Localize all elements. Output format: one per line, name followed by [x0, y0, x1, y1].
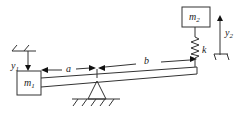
y1-arrow	[25, 51, 31, 71]
spring-k-label: k	[202, 44, 207, 55]
dimension-a-label: a	[66, 63, 71, 74]
y2-reference-ground	[214, 54, 229, 60]
y1-reference-ground	[12, 45, 36, 51]
lever-spring-mass-diagram: y1 m1 a b m2 k	[0, 0, 246, 116]
lever-beam	[41, 67, 197, 87]
y2-arrow	[217, 15, 223, 55]
dimension-b-label: b	[144, 55, 149, 66]
y2-label: y2	[224, 27, 233, 40]
